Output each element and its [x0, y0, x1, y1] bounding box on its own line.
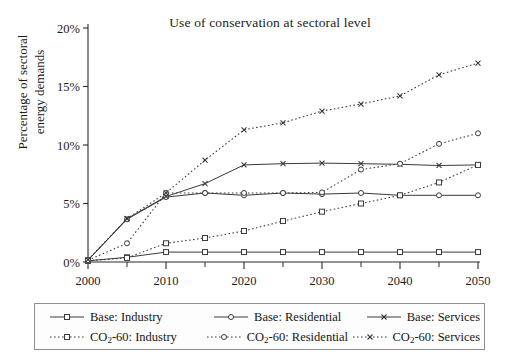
legend-item[interactable]: Base: Industry — [39, 310, 213, 324]
x-tick-label: 2010 — [154, 274, 179, 288]
marker-square — [359, 201, 364, 206]
marker-square — [164, 241, 169, 246]
y-tick-label: 5% — [63, 197, 80, 211]
y-tick-label: 10% — [57, 139, 80, 153]
series-line — [88, 163, 478, 260]
legend-row-co2: CO2-60: IndustryCO2-60: ResidentialCO2-6… — [39, 327, 480, 347]
chart-figure: Use of conservation at sectoral level Pe… — [0, 0, 519, 364]
legend-item-label: Base: Industry — [90, 310, 163, 324]
y-tick-label: 20% — [57, 22, 80, 36]
marker-circle — [476, 193, 481, 198]
legend-row-base: Base: IndustryBase: ResidentialBase: Ser… — [39, 307, 480, 327]
marker-circle — [203, 190, 208, 195]
legend-item-label: CO2-60: Industry — [90, 330, 177, 345]
x-tick-label: 2040 — [388, 274, 413, 288]
legend-item-label: CO2-60: Residential — [247, 330, 348, 345]
marker-circle — [359, 190, 364, 195]
marker-square — [164, 250, 169, 255]
marker-square — [125, 255, 130, 260]
series-base-services — [86, 161, 481, 263]
legend-item-label: Base: Services — [407, 310, 480, 324]
legend-swatch-cross — [366, 311, 402, 323]
marker-circle — [320, 190, 325, 195]
marker-square — [320, 209, 325, 214]
marker-circle — [437, 141, 442, 146]
legend-item[interactable]: CO2-60: Industry — [39, 330, 206, 345]
x-tick-label: 2030 — [310, 274, 335, 288]
series-co2-60-residential — [86, 131, 481, 263]
marker-square — [281, 219, 286, 224]
legend-item[interactable]: Base: Services — [366, 310, 480, 324]
legend-item-label: Base: Residential — [254, 310, 341, 324]
marker-square — [65, 315, 70, 320]
legend-item[interactable]: CO2-60: Residential — [206, 330, 352, 345]
legend-item[interactable]: Base: Residential — [213, 310, 366, 324]
legend-swatch-circle — [206, 331, 242, 343]
plot-area: 0%5%10%15%20%200020102020203020402050 — [0, 0, 519, 300]
series-co2-60-industry — [86, 162, 481, 263]
y-tick-label: 0% — [63, 256, 80, 270]
marker-square — [203, 236, 208, 241]
marker-square — [476, 250, 481, 255]
marker-square — [65, 335, 70, 340]
marker-circle — [242, 190, 247, 195]
marker-circle — [437, 193, 442, 198]
series-line — [88, 63, 478, 260]
series-co2-60-services — [86, 61, 481, 263]
marker-circle — [281, 190, 286, 195]
marker-circle — [398, 161, 403, 166]
marker-circle — [359, 167, 364, 172]
marker-square — [203, 250, 208, 255]
marker-square — [398, 250, 403, 255]
legend-item-label: CO2-60: Services — [393, 330, 480, 345]
marker-square — [359, 250, 364, 255]
x-tick-label: 2000 — [76, 274, 101, 288]
marker-circle — [221, 335, 226, 340]
marker-square — [476, 162, 481, 167]
legend-swatch-circle — [213, 311, 249, 323]
y-tick-label: 15% — [57, 80, 80, 94]
marker-square — [398, 193, 403, 198]
marker-circle — [229, 315, 234, 320]
marker-square — [242, 250, 247, 255]
marker-square — [242, 228, 247, 233]
chart-legend: Base: IndustryBase: ResidentialBase: Ser… — [34, 303, 485, 350]
marker-square — [320, 250, 325, 255]
marker-square — [281, 250, 286, 255]
x-tick-label: 2050 — [466, 274, 491, 288]
legend-swatch-square — [49, 311, 85, 323]
series-base-industry — [86, 250, 481, 264]
x-tick-label: 2020 — [232, 274, 257, 288]
marker-square — [437, 250, 442, 255]
marker-circle — [476, 131, 481, 136]
legend-swatch-square — [49, 331, 85, 343]
legend-item[interactable]: CO2-60: Services — [352, 330, 480, 345]
series-line — [88, 165, 478, 261]
legend-swatch-cross — [352, 331, 388, 343]
series-line — [88, 133, 478, 260]
marker-square — [437, 180, 442, 185]
marker-circle — [125, 241, 130, 246]
